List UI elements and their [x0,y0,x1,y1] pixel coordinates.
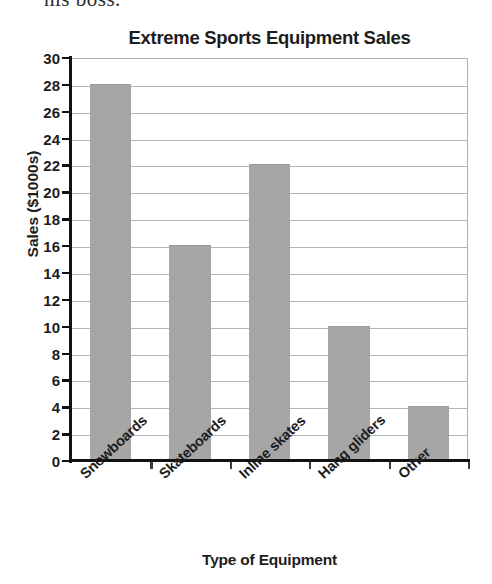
x-axis-tick [468,462,470,469]
y-axis-tick [62,433,71,435]
y-axis-tick-label: 2 [34,427,60,442]
y-axis-line [69,56,72,463]
bar [249,164,290,461]
y-axis-tick [62,299,71,301]
plot-area [71,58,468,461]
y-axis-tick [62,191,71,193]
y-axis-title: Sales ($1000s) [24,109,42,299]
y-axis-tick-label: 10 [34,320,60,335]
y-axis-tick [62,164,71,166]
y-axis-tick-label: 4 [34,400,60,415]
y-axis-tick-label: 0 [34,454,60,469]
y-axis-tick [62,353,71,355]
y-axis-tick [62,138,71,140]
y-axis-tick [62,84,71,86]
chart-title: Extreme Sports Equipment Sales [71,27,468,49]
y-axis-tick [62,272,71,274]
y-axis-tick [62,218,71,220]
x-axis-tick [150,462,152,469]
y-axis-tick-label: 28 [34,78,60,93]
y-axis-tick-label: 6 [34,373,60,388]
x-axis-tick [309,462,311,469]
y-axis-tick [62,57,71,59]
y-axis-tick [62,245,71,247]
y-axis-tick [62,326,71,328]
x-axis-tick [230,462,232,469]
y-axis-tick [62,460,71,462]
x-axis-tick [389,462,391,469]
y-axis-tick [62,379,71,381]
y-axis-tick-label: 30 [34,51,60,66]
x-axis-title: Type of Equipment [71,551,468,569]
bar [90,84,131,461]
y-axis-tick [62,406,71,408]
y-axis-tick-label: 8 [34,347,60,362]
y-axis-tick [62,111,71,113]
bar-chart-figure: Extreme Sports Equipment Sales 302826242… [0,0,492,584]
